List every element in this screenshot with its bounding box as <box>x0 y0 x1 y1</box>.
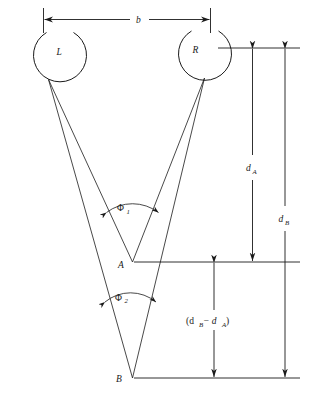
dimension-dB-subscript: B <box>285 219 289 226</box>
left-transducer-label: L <box>56 47 62 57</box>
angle-phi2: Φ 2 <box>105 293 156 305</box>
left-transducer-L: L <box>33 33 86 82</box>
binaural-geometry-diagram: b L R Φ 1 Φ <box>0 0 309 394</box>
left-transducer-arc <box>33 33 86 82</box>
line-R-to-A <box>133 78 205 262</box>
sight-lines-from-right <box>133 78 205 378</box>
right-transducer-R: R <box>179 31 232 80</box>
angle-phi1: Φ 1 <box>107 203 159 215</box>
dimension-dB-minus-dA: (d B − d A ) <box>186 263 229 377</box>
point-B: B <box>116 374 300 384</box>
baseline-dimension-b: b <box>44 8 211 33</box>
dimension-dB-label: d <box>279 214 284 224</box>
right-transducer-arc <box>179 31 232 80</box>
point-A: A <box>117 260 300 270</box>
angle-phi1-subscript: 1 <box>127 208 130 215</box>
angle-phi2-symbol: Φ <box>115 293 122 303</box>
angle-phi1-arc <box>107 204 159 213</box>
figure-root: b L R Φ 1 Φ <box>0 0 309 394</box>
dimension-diff-open: (d <box>186 316 194 327</box>
line-R-to-B <box>133 78 205 378</box>
sight-lines-from-left <box>49 80 133 379</box>
angle-phi2-arc <box>105 293 156 302</box>
line-L-to-B <box>49 80 133 379</box>
angle-phi1-symbol: Φ <box>117 203 124 213</box>
dimension-dA-subscript: A <box>252 168 258 175</box>
point-A-label: A <box>117 260 124 270</box>
dimension-dA-label: d <box>246 163 251 173</box>
dimension-diff-minus-d: − d <box>203 316 217 326</box>
dimension-dA: d A <box>246 49 258 261</box>
baseline-label: b <box>136 15 141 25</box>
dimension-diff-close: ) <box>226 316 229 327</box>
point-B-label: B <box>116 374 122 384</box>
right-transducer-label: R <box>192 45 199 55</box>
dimension-dB: d B <box>279 49 290 377</box>
angle-phi2-subscript: 2 <box>125 297 129 304</box>
line-L-to-A <box>49 80 133 263</box>
